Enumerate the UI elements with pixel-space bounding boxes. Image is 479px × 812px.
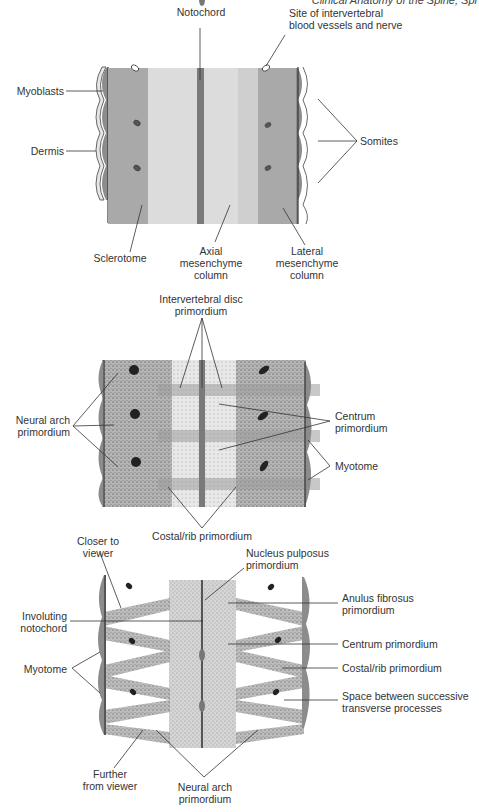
label-space-2: transverse processes — [342, 702, 442, 714]
label-anulus-2: primordium — [342, 604, 395, 616]
label-costal-c: Costal/rib primordium — [342, 662, 442, 674]
label-space-1: Space between successive — [342, 690, 469, 702]
label-closer-2: viewer — [83, 547, 113, 559]
label-costal-b: Costal/rib primordium — [152, 530, 252, 542]
panel-b — [73, 318, 330, 528]
label-anulus-1: Anulus fibrosus — [342, 592, 414, 604]
label-neural-arch-c-1: Neural arch — [178, 781, 232, 793]
label-further-1: Further — [93, 768, 127, 780]
label-centrum-c: Centrum primordium — [342, 638, 438, 650]
label-involuting-2: notochord — [20, 622, 67, 634]
panel-a — [66, 28, 357, 252]
label-centrum-1: Centrum — [335, 410, 375, 422]
label-notochord: Notochord — [177, 6, 225, 18]
label-involuting-1: Involuting — [22, 610, 67, 622]
label-somites: Somites — [360, 135, 398, 147]
label-lateral-1: Lateral — [291, 245, 323, 257]
label-closer-1: Closer to — [77, 535, 119, 547]
label-neural-arch-2: primordium — [17, 426, 70, 438]
label-lateral-3: column — [290, 269, 324, 281]
label-axial-3: column — [194, 269, 228, 281]
label-centrum-2: primordium — [335, 422, 388, 434]
label-further-2: from viewer — [83, 780, 137, 792]
label-ivd-2: primordium — [175, 305, 228, 317]
label-dermis: Dermis — [31, 145, 64, 157]
label-axial-2: mesenchyme — [180, 257, 242, 269]
label-nucleus-1: Nucleus pulposus — [246, 547, 329, 559]
label-intervertebral-site-1: Site of intervertebral — [289, 7, 383, 19]
label-sclerotome: Sclerotome — [93, 252, 146, 264]
label-nucleus-2: primordium — [246, 559, 299, 571]
label-myoblasts: Myoblasts — [17, 85, 64, 97]
label-myotome-b: Myotome — [335, 460, 378, 472]
label-myotome-c: Myotome — [24, 663, 67, 675]
label-axial-1: Axial — [200, 245, 223, 257]
label-neural-arch-c-2: primordium — [179, 793, 232, 805]
label-lateral-2: mesenchyme — [276, 257, 338, 269]
label-intervertebral-site-2: blood vessels and nerve — [289, 19, 402, 31]
label-neural-arch-1: Neural arch — [16, 414, 70, 426]
label-ivd-1: Intervertebral disc — [159, 293, 242, 305]
